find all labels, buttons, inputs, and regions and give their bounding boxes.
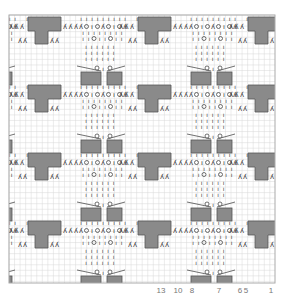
decrease-symbol: ʎ	[128, 241, 132, 249]
decrease-symbol: ʎ	[14, 159, 18, 167]
knit-symbol: ı	[110, 29, 112, 36]
yarn-over-symbol	[0, 37, 3, 41]
knit-symbol: ı	[212, 55, 214, 62]
knit-symbol: ı	[88, 29, 90, 36]
decrease-symbol: ʎ	[68, 91, 72, 99]
yarn-over-symbol	[0, 25, 1, 29]
decrease-symbol: ʎ	[63, 159, 67, 167]
knit-symbol: ı	[104, 165, 106, 172]
knit-symbol: ı	[5, 29, 7, 36]
knit-symbol: ı	[217, 55, 219, 62]
decrease-symbol: ʎ	[240, 227, 244, 235]
knit-symbol: ı	[212, 15, 214, 22]
yarn-over-symbol	[95, 202, 99, 206]
knit-symbol: ı	[220, 165, 222, 172]
knit-symbol: ı	[198, 165, 200, 172]
yarn-over-symbol	[107, 93, 111, 97]
yarn-over-symbol	[0, 229, 1, 233]
knit-symbol: ı	[102, 15, 104, 22]
decrease-symbol: ʎ	[55, 37, 59, 45]
knit-symbol: ı	[104, 171, 106, 178]
decrease-symbol: ʎ	[234, 23, 238, 31]
slant-line	[0, 134, 15, 139]
decrease-symbol: ʎ	[229, 91, 233, 99]
decrease-symbol: ʎ	[23, 37, 27, 45]
decrease-symbol: ʎ	[130, 159, 134, 167]
knit-symbol: ı	[192, 233, 194, 240]
knit-symbol: ı	[212, 201, 214, 208]
decrease-symbol: ʎ	[50, 173, 54, 181]
decrease-symbol: ʎ	[165, 37, 169, 45]
decrease-symbol: ʎ	[160, 105, 164, 113]
decrease-symbol: ʎ	[238, 173, 242, 181]
decrease-symbol: ʎ	[133, 37, 137, 45]
column-label: 13	[157, 286, 166, 295]
decrease-symbol: ʎ	[130, 91, 134, 99]
knit-symbol: ı	[0, 97, 2, 104]
knit-symbol: ı	[93, 29, 95, 36]
decrease-symbol: ʎ	[9, 91, 13, 99]
yarn-over-symbol	[108, 202, 112, 206]
knit-symbol: ı	[223, 15, 225, 22]
knit-symbol: ı	[102, 219, 104, 226]
yarn-over-symbol	[0, 161, 1, 165]
knit-symbol: ı	[220, 29, 222, 36]
decrease-symbol: ʎ	[130, 227, 134, 235]
decrease-symbol: ʎ	[234, 91, 238, 99]
knit-symbol: ı	[3, 23, 5, 31]
column-label: 6	[238, 286, 242, 295]
knit-symbol: ı	[102, 133, 104, 140]
decrease-symbol: ʎ	[20, 91, 24, 99]
decrease-symbol: ʎ	[275, 173, 279, 181]
knit-symbol: ı	[190, 15, 192, 22]
decrease-symbol: ʎ	[240, 23, 244, 31]
decrease-symbol: ʎ	[128, 37, 132, 45]
decrease-symbol: ʎ	[184, 91, 188, 99]
decrease-symbol: ʎ	[184, 23, 188, 31]
knit-symbol: ı	[234, 83, 236, 90]
decrease-symbol: ʎ	[68, 227, 72, 235]
decrease-symbol: ʎ	[18, 241, 22, 249]
knit-symbol: ı	[234, 219, 236, 226]
decrease-symbol: ʎ	[270, 37, 274, 45]
yarn-over-symbol	[0, 134, 2, 138]
yarn-over-symbol	[202, 105, 206, 109]
decrease-symbol: ʎ	[55, 241, 59, 249]
decrease-symbol: ʎ	[240, 91, 244, 99]
decrease-symbol: ʎ	[133, 241, 137, 249]
knit-symbol: ı	[5, 165, 7, 172]
knit-symbol: ı	[195, 55, 197, 62]
decrease-symbol: ʎ	[133, 173, 137, 181]
knit-symbol: ı	[198, 35, 200, 42]
knit-symbol: ı	[93, 165, 95, 172]
knit-symbol: ı	[108, 15, 110, 22]
knit-symbol: ı	[124, 151, 126, 158]
knit-symbol: ı	[229, 15, 231, 22]
decrease-symbol: ʎ	[160, 173, 164, 181]
decrease-symbol: ʎ	[9, 159, 13, 167]
yarn-over-symbol	[218, 202, 222, 206]
knit-symbol: ı	[5, 233, 7, 240]
knit-symbol: ı	[14, 219, 16, 226]
yarn-over-symbol	[218, 270, 222, 274]
knit-symbol: ı	[225, 29, 227, 36]
decrease-symbol: ʎ	[119, 23, 123, 31]
knit-symbol: ı	[212, 219, 214, 226]
decrease-symbol: ʎ	[234, 227, 238, 235]
decrease-symbol: ʎ	[184, 227, 188, 235]
slant-line	[0, 202, 15, 207]
decrease-symbol: ʎ	[74, 227, 78, 235]
decrease-symbol: ʎ	[124, 23, 128, 31]
yarn-over-symbol	[108, 134, 112, 138]
decrease-symbol: ʎ	[63, 23, 67, 31]
yarn-over-symbol	[107, 161, 111, 165]
knit-symbol: ı	[82, 171, 84, 178]
knit-symbol: ı	[5, 97, 7, 104]
knit-symbol: ı	[196, 15, 198, 22]
decrease-symbol: ʎ	[173, 23, 177, 31]
knit-symbol: ı	[14, 151, 16, 158]
knit-symbol: ı	[206, 55, 208, 62]
column-label: 8	[190, 286, 194, 295]
column-label: 1	[269, 286, 273, 295]
decrease-symbol: ʎ	[178, 227, 182, 235]
